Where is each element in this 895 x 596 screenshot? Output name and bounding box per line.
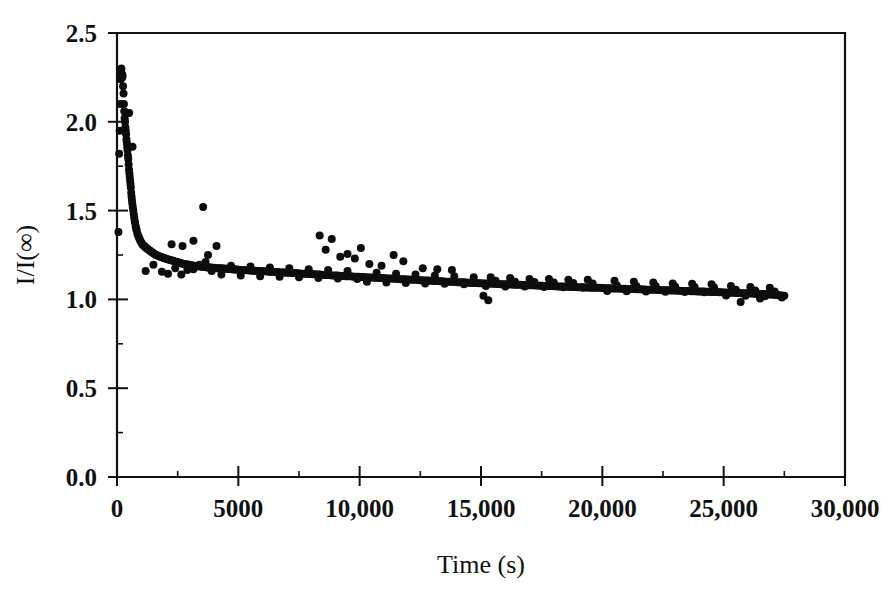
- data-point: [623, 287, 631, 295]
- x-tick-label: 0: [111, 495, 124, 522]
- data-point: [202, 258, 210, 266]
- data-point: [392, 270, 400, 278]
- data-point: [433, 265, 441, 273]
- data-point: [344, 267, 352, 275]
- data-point: [357, 244, 365, 252]
- data-point: [129, 143, 137, 151]
- data-point: [661, 288, 669, 296]
- data-points-layer: [114, 65, 788, 307]
- data-point: [351, 255, 359, 263]
- data-point: [610, 277, 618, 285]
- data-point: [688, 280, 696, 288]
- data-point: [642, 287, 650, 295]
- data-point: [526, 275, 534, 283]
- data-point: [560, 283, 568, 291]
- data-point: [421, 279, 429, 287]
- data-point: [727, 282, 735, 290]
- data-point: [399, 257, 407, 265]
- data-point: [305, 265, 313, 273]
- x-tick-label: 25,000: [689, 495, 758, 522]
- data-point: [419, 264, 427, 272]
- data-point: [256, 272, 264, 280]
- data-point: [328, 235, 336, 243]
- data-point: [199, 203, 207, 211]
- data-point: [276, 273, 284, 281]
- data-point: [212, 242, 220, 250]
- data-point: [316, 231, 324, 239]
- data-point: [149, 261, 157, 269]
- data-point: [324, 266, 332, 274]
- x-tick-label: 5000: [213, 495, 263, 522]
- x-tick-label: 10,000: [325, 495, 394, 522]
- data-point: [334, 274, 342, 282]
- data-point: [482, 282, 490, 290]
- data-point: [470, 273, 478, 281]
- data-point: [501, 282, 509, 290]
- data-series: [114, 65, 788, 307]
- data-point: [778, 294, 786, 302]
- data-point: [125, 109, 133, 117]
- data-point: [179, 242, 187, 250]
- data-point: [402, 279, 410, 287]
- y-tick-label: 2.0: [66, 109, 97, 136]
- data-point: [460, 280, 468, 288]
- data-point: [227, 262, 235, 270]
- data-point: [448, 266, 456, 274]
- data-point: [119, 82, 127, 90]
- data-point: [681, 288, 689, 296]
- x-axis-tick-labels: 0500010,00015,00020,00025,00030,000: [111, 495, 880, 522]
- chart-page: 0.00.51.01.52.02.5 0500010,00015,00020,0…: [0, 0, 895, 596]
- data-point: [322, 246, 330, 254]
- data-point: [164, 270, 172, 278]
- data-point: [669, 279, 677, 287]
- data-point: [246, 263, 254, 271]
- data-point: [285, 264, 293, 272]
- data-point: [700, 288, 708, 296]
- data-point: [756, 295, 764, 303]
- y-tick-label: 2.5: [66, 20, 97, 47]
- data-point: [746, 283, 754, 291]
- y-tick-label: 0.5: [66, 375, 97, 402]
- data-point: [479, 292, 487, 300]
- plot-frame: [117, 33, 845, 477]
- data-point: [204, 251, 212, 259]
- data-point: [237, 271, 245, 279]
- data-point: [630, 278, 638, 286]
- data-point: [411, 271, 419, 279]
- data-point: [584, 276, 592, 284]
- data-point: [114, 228, 122, 236]
- data-point: [441, 280, 449, 288]
- data-point: [336, 253, 344, 261]
- data-point: [579, 284, 587, 292]
- data-point: [189, 237, 197, 245]
- data-point: [521, 283, 529, 291]
- x-tick-label: 30,000: [811, 495, 880, 522]
- data-point: [390, 251, 398, 259]
- data-point: [295, 273, 303, 281]
- data-point: [365, 260, 373, 268]
- data-point: [120, 89, 128, 97]
- data-point: [603, 287, 611, 295]
- data-point: [373, 269, 381, 277]
- data-point: [382, 279, 390, 287]
- data-point: [722, 291, 730, 299]
- data-point: [171, 264, 179, 272]
- data-point: [506, 274, 514, 282]
- y-axis-title: I/I(∞): [11, 225, 40, 285]
- data-point: [564, 276, 572, 284]
- x-tick-label: 20,000: [568, 495, 637, 522]
- y-tick-label: 1.0: [66, 286, 97, 313]
- data-point: [708, 280, 716, 288]
- data-point: [115, 150, 123, 158]
- data-point: [344, 250, 352, 258]
- data-point: [266, 263, 274, 271]
- data-point: [737, 298, 745, 306]
- y-tick-label: 0.0: [66, 464, 97, 491]
- data-point: [314, 274, 322, 282]
- scatter-chart: 0.00.51.01.52.02.5 0500010,00015,00020,0…: [0, 0, 895, 596]
- data-point: [378, 262, 386, 270]
- data-point: [766, 284, 774, 292]
- data-point: [545, 275, 553, 283]
- x-axis-title: Time (s): [437, 550, 525, 579]
- y-tick-label: 1.5: [66, 198, 97, 225]
